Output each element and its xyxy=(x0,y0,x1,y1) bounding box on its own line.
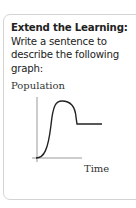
population-graph xyxy=(0,0,136,208)
x-axis-label: Time xyxy=(84,163,109,174)
population-curve xyxy=(36,101,102,158)
